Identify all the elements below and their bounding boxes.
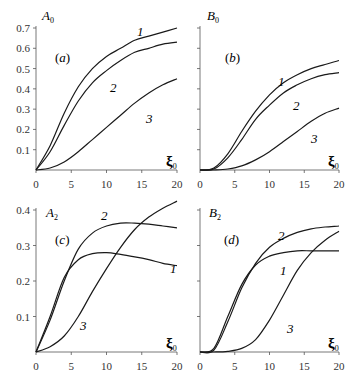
curve-label-3: 3	[79, 318, 87, 333]
x-axis-label: ξ0	[166, 153, 177, 171]
x-tick-label: 5	[69, 360, 75, 372]
x-tick-label: 0	[197, 178, 203, 190]
curve-3	[36, 79, 177, 170]
curve-label-1: 1	[280, 263, 287, 278]
panel-tag: (d)	[224, 232, 239, 247]
curve-label-3: 3	[310, 131, 318, 146]
y-tick-label: 0.2	[16, 123, 30, 135]
curve-label-2: 2	[278, 228, 285, 243]
x-tick-label: 0	[33, 178, 39, 190]
y-axis-label: B2	[209, 205, 221, 222]
curve-label-2: 2	[293, 98, 300, 113]
x-tick-label: 15	[299, 360, 311, 372]
x-tick-label: 20	[172, 360, 184, 372]
x-tick-label: 20	[334, 178, 346, 190]
y-tick-label: 0.5	[16, 63, 30, 75]
x-tick-label: 15	[136, 178, 148, 190]
curve-label-2: 2	[110, 80, 117, 95]
y-tick-label: 0.6	[16, 42, 30, 54]
x-tick-label: 20	[172, 178, 184, 190]
curve-3	[36, 201, 177, 352]
panel-a: 0.10.20.30.40.50.60.705101520A0ξ0(a)123	[16, 8, 183, 190]
y-axis-label: B0	[207, 8, 219, 25]
panel-d: 05101520B2ξ0(d)213	[197, 205, 345, 372]
curve-3	[200, 108, 339, 170]
y-tick-label: 0.1	[16, 311, 30, 323]
x-tick-label: 5	[232, 178, 238, 190]
x-tick-label: 0	[197, 360, 203, 372]
y-axis-label: A0	[41, 8, 54, 25]
panel-tag: (b)	[225, 50, 240, 65]
panel-tag: (c)	[55, 232, 69, 247]
x-axis-label: ξ0	[328, 335, 339, 353]
y-tick-label: 0.4	[16, 83, 30, 95]
y-axis-label: A2	[45, 205, 58, 222]
y-tick-label: 0.1	[16, 144, 30, 156]
figure: 0.10.20.30.40.50.60.705101520A0ξ0(a)1230…	[0, 0, 357, 381]
curve-label-1: 1	[170, 261, 177, 276]
x-tick-label: 20	[334, 360, 346, 372]
curve-label-1: 1	[137, 24, 144, 39]
curve-label-3: 3	[145, 111, 153, 126]
y-tick-label: 0.3	[16, 103, 30, 115]
panel-b: 05101520B0ξ0(b)123	[197, 8, 345, 190]
y-tick-label: 0.2	[16, 275, 30, 287]
panel-tag: (a)	[55, 50, 70, 65]
x-tick-label: 10	[101, 178, 113, 190]
y-tick-label: 0.4	[16, 204, 30, 216]
x-tick-label: 10	[264, 178, 276, 190]
x-tick-label: 15	[136, 360, 148, 372]
x-tick-label: 5	[69, 178, 75, 190]
x-tick-label: 10	[264, 360, 276, 372]
panel-c: 0.10.20.30.405101520A2ξ0(c)213	[16, 201, 183, 372]
curve-label-3: 3	[286, 321, 294, 336]
curve-label-1: 1	[278, 74, 285, 89]
y-tick-label: 0.7	[16, 22, 30, 34]
x-axis-label: ξ0	[328, 153, 339, 171]
x-tick-label: 15	[299, 178, 311, 190]
x-tick-label: 10	[101, 360, 113, 372]
curve-2	[200, 73, 339, 171]
x-axis-label: ξ0	[166, 335, 177, 353]
y-tick-label: 0.3	[16, 240, 30, 252]
x-tick-label: 5	[232, 360, 238, 372]
x-tick-label: 0	[33, 360, 39, 372]
curve-label-2: 2	[101, 208, 108, 223]
